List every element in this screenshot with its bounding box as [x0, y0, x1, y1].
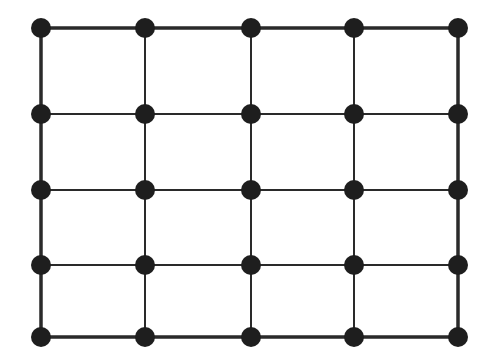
grid-node — [448, 180, 468, 200]
grid-node — [31, 180, 51, 200]
grid-node — [344, 104, 364, 124]
grid-node — [344, 180, 364, 200]
grid-node — [241, 180, 261, 200]
grid-node — [135, 255, 155, 275]
grid-node — [135, 327, 155, 347]
grid-node — [241, 18, 261, 38]
grid-node — [31, 255, 51, 275]
grid-nodes — [31, 18, 468, 347]
grid-node — [135, 18, 155, 38]
grid-node — [135, 180, 155, 200]
grid-node — [241, 255, 261, 275]
grid-node — [448, 18, 468, 38]
grid-diagram — [0, 0, 489, 362]
grid-node — [241, 327, 261, 347]
grid-node — [448, 104, 468, 124]
grid-node — [31, 18, 51, 38]
grid-node — [31, 104, 51, 124]
grid-node — [344, 327, 364, 347]
grid-node — [31, 327, 51, 347]
grid-node — [448, 327, 468, 347]
grid-node — [344, 18, 364, 38]
grid-node — [344, 255, 364, 275]
grid-node — [448, 255, 468, 275]
grid-node — [241, 104, 261, 124]
grid-node — [135, 104, 155, 124]
